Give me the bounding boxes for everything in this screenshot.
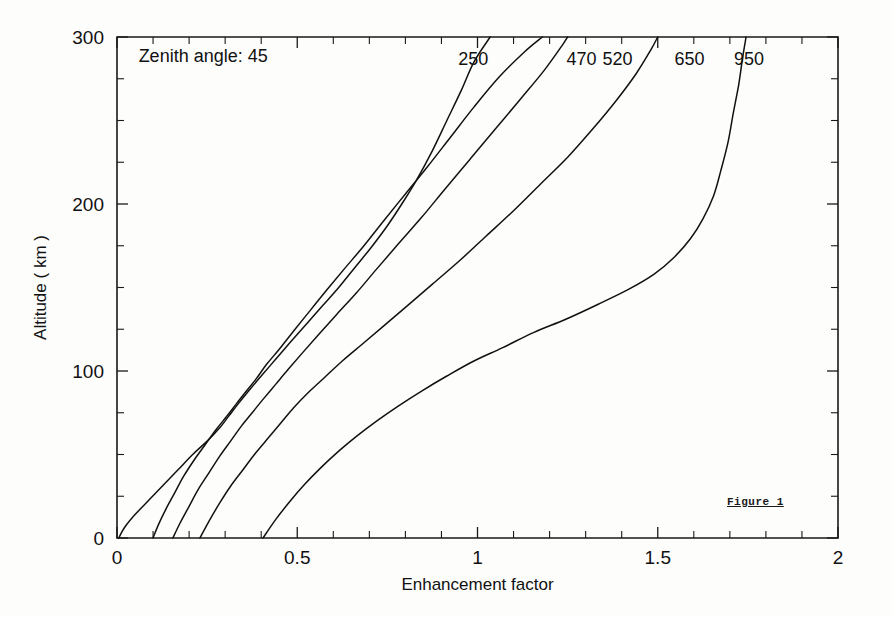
plot-frame bbox=[117, 37, 838, 538]
x-tick-label: 0 bbox=[112, 547, 123, 568]
figure-container: 00.511.520100200300Enhancement factorAlt… bbox=[0, 0, 892, 617]
curve-label: 950 bbox=[734, 49, 764, 69]
y-tick-label: 200 bbox=[72, 194, 104, 215]
x-tick-label: 1 bbox=[472, 547, 483, 568]
curve-label: 250 bbox=[458, 49, 488, 69]
curve-label: 650 bbox=[675, 49, 705, 69]
curve-label: 520 bbox=[602, 49, 632, 69]
x-axis-title: Enhancement factor bbox=[401, 575, 553, 594]
curve-label: 470 bbox=[566, 49, 596, 69]
y-axis-title: Altitude ( km ) bbox=[31, 235, 50, 340]
labels-group: 00.511.520100200300Enhancement factorAlt… bbox=[31, 27, 843, 594]
x-tick-label: 0.5 bbox=[284, 547, 310, 568]
y-tick-label: 300 bbox=[72, 27, 104, 48]
axes-group bbox=[117, 37, 838, 538]
ticks-group bbox=[117, 37, 838, 538]
data-curve bbox=[200, 37, 658, 538]
y-tick-label: 0 bbox=[93, 528, 104, 549]
data-curve bbox=[119, 37, 490, 538]
data-curve bbox=[263, 37, 746, 538]
x-tick-label: 2 bbox=[833, 547, 844, 568]
curves-group bbox=[119, 37, 746, 538]
data-curve bbox=[173, 37, 568, 538]
y-tick-label: 100 bbox=[72, 361, 104, 382]
chart-canvas: 00.511.520100200300Enhancement factorAlt… bbox=[0, 0, 892, 617]
x-tick-label: 1.5 bbox=[645, 547, 671, 568]
figure-caption: Figure 1 bbox=[727, 496, 784, 508]
data-curve bbox=[153, 37, 542, 538]
zenith-angle-annotation: Zenith angle: 45 bbox=[139, 46, 268, 66]
